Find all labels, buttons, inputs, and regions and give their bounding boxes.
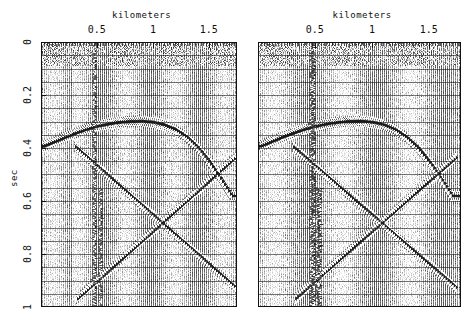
right-panel-xtick-label-1: 1 (369, 24, 375, 35)
left-panel-ytick-label-1: 0.2 (22, 86, 33, 104)
left-panel-seismic-canvas (41, 42, 237, 307)
figure-root: kilometers 0.5 1 1.5 sec 0 0.2 0.4 0.6 0… (0, 0, 475, 329)
left-panel-xtick-label-0: 0.5 (88, 24, 106, 35)
right-panel-xaxis-title: kilometers (333, 10, 392, 20)
left-panel-ytick-label-4: 0.8 (22, 245, 33, 263)
right-panel-seismic-canvas (258, 42, 461, 307)
left-panel-xaxis-title: kilometers (112, 10, 171, 20)
left-panel-ytick-label-2: 0.4 (22, 139, 33, 157)
left-panel-xtick-label-1: 1 (150, 24, 156, 35)
left-panel-yaxis-title: sec (9, 169, 19, 187)
left-panel-xtick-label-2: 1.5 (200, 24, 218, 35)
right-panel-xtick-label-0: 0.5 (306, 24, 324, 35)
left-panel-ytick-label-5: 1 (22, 304, 33, 310)
left-panel-ytick-label-3: 0.6 (22, 192, 33, 210)
right-panel-xtick-label-2: 1.5 (420, 24, 438, 35)
left-panel-ytick-label-0: 0 (22, 39, 33, 45)
